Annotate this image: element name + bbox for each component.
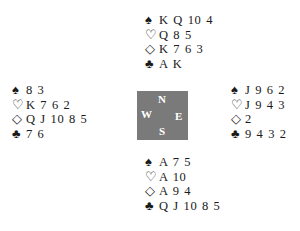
heart-icon: ♡ (231, 98, 245, 113)
north-diamonds: ◇K 7 6 3 (145, 42, 213, 57)
club-icon: ♣ (231, 127, 245, 142)
spade-icon: ♠ (145, 155, 159, 170)
south-hearts: ♡A 10 (145, 170, 220, 185)
north-hand: ♠K Q 10 4 ♡Q 8 5 ◇K 7 6 3 ♣A K (145, 13, 213, 71)
east-clubs: ♣9 4 3 2 (231, 127, 287, 142)
club-icon: ♣ (145, 57, 159, 72)
heart-icon: ♡ (145, 28, 159, 43)
compass-east-label: E (175, 110, 182, 122)
compass-south-label: S (159, 125, 165, 137)
compass-table: N W E S (137, 91, 188, 140)
north-hearts: ♡Q 8 5 (145, 28, 213, 43)
south-diamonds: ◇A 9 4 (145, 184, 220, 199)
west-clubs: ♣7 6 (12, 127, 87, 142)
south-clubs: ♣Q J 10 8 5 (145, 199, 220, 214)
east-hand: ♠J 9 6 2 ♡J 9 4 3 ◇2 ♣9 4 3 2 (231, 83, 287, 141)
heart-icon: ♡ (12, 98, 26, 113)
east-diamonds: ◇2 (231, 112, 287, 127)
club-icon: ♣ (145, 199, 159, 214)
east-spades: ♠J 9 6 2 (231, 83, 287, 98)
spade-icon: ♠ (12, 83, 26, 98)
west-spades: ♠8 3 (12, 83, 87, 98)
spade-icon: ♠ (145, 13, 159, 28)
north-clubs: ♣A K (145, 57, 213, 72)
west-hearts: ♡K 7 6 2 (12, 98, 87, 113)
north-spades: ♠K Q 10 4 (145, 13, 213, 28)
diamond-icon: ◇ (145, 42, 159, 57)
compass-west-label: W (141, 108, 152, 120)
west-hand: ♠8 3 ♡K 7 6 2 ◇Q J 10 8 5 ♣7 6 (12, 83, 87, 141)
spade-icon: ♠ (231, 83, 245, 98)
east-hearts: ♡J 9 4 3 (231, 98, 287, 113)
west-diamonds: ◇Q J 10 8 5 (12, 112, 87, 127)
diamond-icon: ◇ (145, 184, 159, 199)
compass-north-label: N (158, 93, 166, 105)
diamond-icon: ◇ (12, 112, 26, 127)
diamond-icon: ◇ (231, 112, 245, 127)
south-hand: ♠A 7 5 ♡A 10 ◇A 9 4 ♣Q J 10 8 5 (145, 155, 220, 213)
club-icon: ♣ (12, 127, 26, 142)
south-spades: ♠A 7 5 (145, 155, 220, 170)
heart-icon: ♡ (145, 170, 159, 185)
